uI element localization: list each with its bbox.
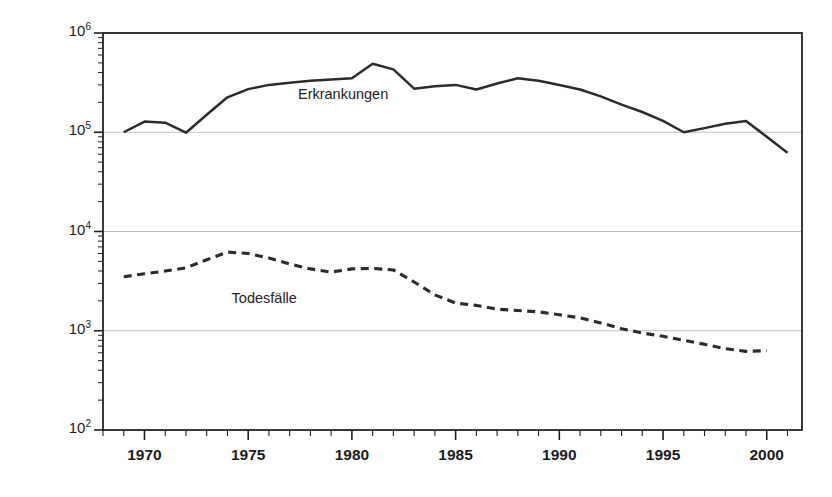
x-tick-label-1990: 1990: [531, 446, 587, 464]
major-ticks: [94, 33, 787, 440]
series-label-1: Erkrankungen: [298, 86, 388, 102]
x-tick-label-1985: 1985: [428, 446, 484, 464]
series-line-2: [124, 252, 767, 351]
y-tick-label-5: 105: [37, 121, 91, 138]
x-tick-label-2000: 2000: [739, 446, 795, 464]
x-tick-label-1970: 1970: [116, 446, 172, 464]
series-line-1: [124, 64, 788, 153]
x-tick-label-1995: 1995: [635, 446, 691, 464]
y-tick-label-6: 106: [37, 22, 91, 39]
gridlines: [103, 33, 802, 331]
x-tick-label-1975: 1975: [220, 446, 276, 464]
x-tick-label-1980: 1980: [324, 446, 380, 464]
chart-figure: gemeldete Malaria-Fälle 102103104105106 …: [0, 0, 832, 497]
data-series-group: [124, 64, 788, 352]
plot-canvas: [0, 0, 832, 497]
y-tick-label-2: 102: [37, 419, 91, 436]
y-tick-label-3: 103: [37, 320, 91, 337]
y-tick-label-4: 104: [37, 221, 91, 238]
series-label-2: Todesfälle: [232, 290, 297, 306]
